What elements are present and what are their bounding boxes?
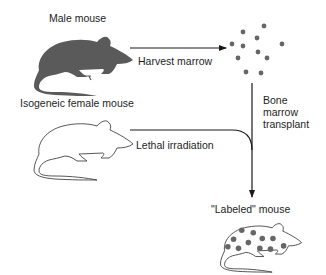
female-mouse-icon bbox=[34, 121, 133, 180]
female-mouse-label: Isogeneic female mouse bbox=[20, 97, 134, 109]
male-mouse-label: Male mouse bbox=[49, 12, 106, 24]
male-mouse-icon bbox=[34, 37, 133, 96]
diagram-canvas bbox=[0, 0, 326, 275]
labeled-mouse-icon bbox=[220, 224, 301, 272]
harvest-marrow-label: Harvest marrow bbox=[138, 55, 212, 67]
transplant-label-line3: transplant bbox=[263, 118, 309, 130]
labeled-mouse-label: "Labeled" mouse bbox=[211, 203, 290, 215]
marrow-cells-cluster bbox=[230, 24, 285, 76]
lethal-irradiation-label: Lethal irradiation bbox=[136, 139, 214, 151]
transplant-label-line2: marrow bbox=[263, 106, 298, 118]
transplant-label-line1: Bone bbox=[263, 94, 288, 106]
